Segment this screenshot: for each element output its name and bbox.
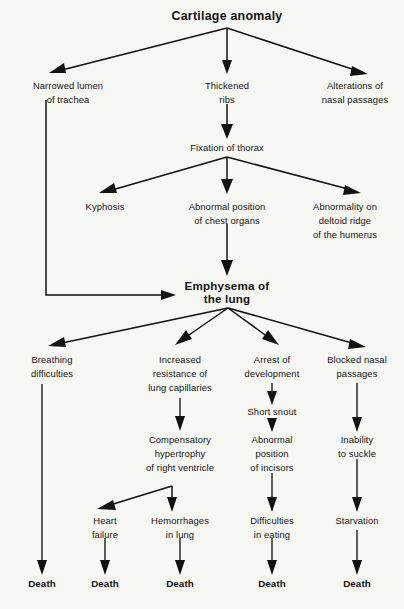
arrowhead-breathing-difficulties	[48, 337, 66, 347]
flowchart-canvas: Cartilage anomaly Narrowed lumen of trac…	[0, 0, 404, 609]
edge-emphysema-to-blocked-nasal	[228, 308, 352, 343]
arrowhead-hemorrhages-in-lung	[167, 497, 177, 512]
edge-fixation-to-kyphosis	[112, 157, 227, 190]
edge-fixation-to-deltoid	[227, 157, 348, 189]
edge-cartilage-to-narrowed-lumen	[62, 28, 227, 70]
arrowhead-abnormal-position-chest	[221, 179, 233, 194]
node-hemorrhages-lung-line2: in lung	[166, 529, 194, 540]
node-cartilage-anomaly: Cartilage anomaly	[172, 9, 283, 23]
node-kyphosis: Kyphosis	[86, 201, 125, 212]
node-heart-failure-line1: Heart	[93, 515, 117, 526]
arrowhead-abnormality-deltoid	[343, 185, 361, 195]
arrowhead-death-4	[267, 560, 277, 575]
node-hemorrhages-lung-line1: Hemorrhages	[151, 515, 209, 526]
node-arrest-development-line2: development	[245, 368, 300, 379]
edge-narrowed-lumen-to-emphysema	[46, 100, 163, 295]
node-inability-suckle-line2: to suckle	[338, 448, 376, 459]
node-thickened-ribs-line1: Thickened	[205, 80, 249, 91]
node-thickened-ribs-line2: ribs	[219, 94, 235, 105]
node-difficulties-eating-line2: in eating	[254, 529, 290, 540]
node-increased-resistance-line1: Increased	[159, 354, 201, 365]
arrowhead-thickened-ribs	[222, 60, 232, 74]
node-emphysema-lung-line2: the lung	[204, 292, 251, 305]
node-fixation-thorax: Fixation of thorax	[190, 142, 264, 153]
arrowhead-inability-to-suckle	[352, 417, 362, 432]
node-death-1: Death	[28, 578, 56, 589]
node-abnormal-position-incisors-line3: of incisors	[250, 462, 294, 473]
arrowhead-short-snout	[267, 391, 277, 405]
node-increased-resistance-line3: lung capillaries	[148, 382, 212, 393]
flowchart-page: Cartilage anomaly Narrowed lumen of trac…	[0, 0, 404, 609]
arrowhead-heart-failure	[97, 500, 116, 510]
node-breathing-difficulties-line1: Breathing	[31, 354, 72, 365]
arrowhead-death-5	[352, 560, 362, 575]
arrowhead-blocked-nasal	[348, 339, 366, 349]
edge-hypertrophy-to-heart-failure	[110, 486, 172, 505]
node-starvation: Starvation	[335, 515, 378, 526]
arrowhead-arrest-development	[262, 330, 279, 345]
node-breathing-difficulties-line2: difficulties	[31, 368, 73, 379]
edge-emphysema-to-arrest-development	[228, 308, 268, 337]
arrowhead-kyphosis	[99, 183, 117, 193]
arrowhead-increased-resistance	[175, 330, 192, 345]
node-compensatory-hypertrophy-line2: hypertrophy	[155, 448, 206, 459]
arrowhead-starvation	[352, 497, 362, 512]
node-alterations-nasal-line1: Alterations of	[327, 80, 383, 91]
node-short-snout: Short snout	[247, 406, 296, 417]
node-abnormal-position-incisors-line1: Abnormal	[252, 434, 293, 445]
node-layer: Cartilage anomaly Narrowed lumen of trac…	[28, 9, 388, 589]
node-arrest-development-line1: Arrest of	[254, 354, 291, 365]
node-difficulties-eating-line1: Difficulties	[250, 515, 294, 526]
node-compensatory-hypertrophy-line1: Compensatory	[149, 434, 211, 445]
arrowhead-alterations-nasal	[350, 66, 368, 76]
arrowhead-death-3	[175, 560, 185, 575]
arrowhead-compensatory-hypertrophy	[175, 416, 185, 431]
node-increased-resistance-line2: resistance of	[153, 368, 208, 379]
node-death-3: Death	[166, 578, 194, 589]
arrowhead-fixation-thorax	[221, 124, 233, 139]
node-narrowed-lumen-line2: of trachea	[47, 94, 90, 105]
node-abnormal-position-incisors-line2: position	[255, 448, 288, 459]
edge-layer	[37, 28, 368, 575]
arrowhead-emphysema-from-chest	[221, 260, 233, 276]
arrowhead-emphysema-from-trachea	[161, 290, 176, 300]
node-abnormal-position-chest-line1: Abnormal position	[189, 201, 266, 212]
node-emphysema-lung-line1: Emphysema of	[185, 279, 270, 292]
node-death-4: Death	[258, 578, 286, 589]
node-compensatory-hypertrophy-line3: of right ventricle	[146, 462, 214, 473]
arrowhead-death-2	[100, 560, 110, 575]
arrowhead-abnormal-position-incisors	[267, 418, 277, 432]
edge-cartilage-to-alterations-nasal	[227, 28, 355, 70]
node-abnormal-position-chest-line2: of chest organs	[194, 215, 260, 226]
node-blocked-nasal-line1: Blocked nasal	[327, 354, 387, 365]
node-abnormality-deltoid-line1: Abnormality on	[313, 201, 377, 212]
node-abnormality-deltoid-line2: deltoid ridge	[319, 215, 371, 226]
node-inability-suckle-line1: Inability	[341, 434, 374, 445]
node-heart-failure-line2: failure	[92, 529, 118, 540]
arrowhead-death-1	[37, 560, 47, 575]
node-blocked-nasal-line2: passages	[337, 368, 378, 379]
arrowhead-narrowed-lumen	[49, 63, 66, 73]
arrowhead-difficulties-in-eating	[267, 497, 277, 512]
node-alterations-nasal-line2: nasal passages	[322, 94, 389, 105]
node-abnormality-deltoid-line3: of the humerus	[313, 229, 377, 240]
node-narrowed-lumen-line1: Narrowed lumen	[33, 80, 103, 91]
node-death-5: Death	[343, 578, 371, 589]
node-death-2: Death	[91, 578, 119, 589]
